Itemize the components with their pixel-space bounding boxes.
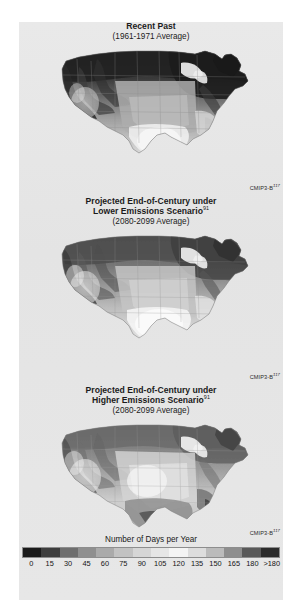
colorbar-tick: >180 (263, 559, 280, 568)
panel-title-higher-emissions-text: Higher Emissions Scenario (92, 395, 204, 405)
colorbar-segment (133, 548, 151, 557)
colorbar-segment (78, 548, 96, 557)
attribution-superscript: 117 (273, 183, 280, 188)
panel-subtitle-lower-emissions: (2080-2099 Average) (19, 217, 283, 227)
panel-subtitle-recent-past: (1961-1971 Average) (19, 32, 283, 42)
attribution-superscript: 117 (273, 528, 280, 533)
attribution-recent-past: CMIP3-B117 (250, 185, 280, 191)
us-map-recent-past (19, 41, 283, 165)
colorbar-segment (206, 548, 224, 557)
attribution-superscript: 117 (273, 372, 280, 377)
colorbar (22, 547, 280, 558)
colorbar-tick: 135 (191, 559, 203, 568)
panel-title-higher-emissions-line2: Higher Emissions Scenario91 (19, 396, 283, 406)
colorbar-segment (169, 548, 187, 557)
us-map-lower-emissions (19, 226, 283, 350)
map-body-higher-emissions (19, 415, 283, 539)
map-panel-lower-emissions: Projected End-of-Century under Lower Emi… (19, 197, 283, 350)
colorbar-tick: 75 (119, 559, 127, 568)
panel-title-recent-past: Recent Past (19, 22, 283, 32)
colorbar-tick: 105 (154, 559, 166, 568)
colorbar-tick: 30 (64, 559, 72, 568)
colorbar-segment (96, 548, 114, 557)
colorbar-tick: 120 (172, 559, 184, 568)
colorbar-tick: 180 (246, 559, 258, 568)
colorbar-segment (114, 548, 132, 557)
map-body-lower-emissions (19, 226, 283, 350)
us-map-higher-emissions (19, 415, 283, 539)
colorbar-segment (224, 548, 242, 557)
panel-subtitle-higher-emissions: (2080-2099 Average) (19, 406, 283, 416)
attribution-lower-emissions: CMIP3-B117 (250, 374, 280, 380)
attribution-label: CMIP3-B (250, 185, 273, 191)
colorbar-segment (261, 548, 279, 557)
map-panel-recent-past: Recent Past (1961-1971 Average) (19, 22, 283, 165)
panel-title-higher-emissions-sup: 91 (204, 394, 210, 400)
figure-canvas: Recent Past (1961-1971 Average) (19, 22, 283, 600)
colorbar-segment (151, 548, 169, 557)
colorbar-tick: 60 (101, 559, 109, 568)
panel-title-lower-emissions-sup: 91 (203, 205, 209, 211)
colorbar-tick: 0 (29, 559, 33, 568)
colorbar-tick: 45 (82, 559, 90, 568)
colorbar-segment (188, 548, 206, 557)
map-panel-higher-emissions: Projected End-of-Century under Higher Em… (19, 386, 283, 539)
panel-title-lower-emissions-line2: Lower Emissions Scenario91 (19, 207, 283, 217)
colorbar-tick: 165 (228, 559, 240, 568)
colorbar-tick: 15 (46, 559, 54, 568)
colorbar-tick: 150 (209, 559, 221, 568)
colorbar-segment (60, 548, 78, 557)
colorbar-tick: 90 (138, 559, 146, 568)
colorbar-tick-labels: 0153045607590105120135150165180>180 (22, 558, 280, 570)
colorbar-segment (23, 548, 41, 557)
map-body-recent-past (19, 41, 283, 165)
attribution-label: CMIP3-B (250, 374, 273, 380)
legend: Number of Days per Year 0153045607590105… (19, 534, 283, 570)
colorbar-segment (41, 548, 59, 557)
legend-title: Number of Days per Year (19, 534, 283, 545)
panel-title-lower-emissions-text: Lower Emissions Scenario (93, 206, 203, 216)
colorbar-segment (242, 548, 260, 557)
